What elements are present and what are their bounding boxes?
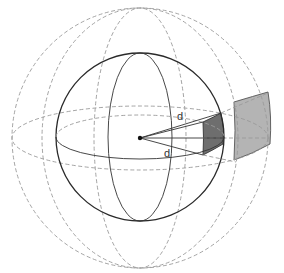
label-d-lower: d — [164, 147, 170, 159]
inner-dashed-equator-back — [56, 115, 224, 137]
label-d-upper: d — [177, 110, 183, 122]
center-point — [138, 136, 142, 140]
radial-dashed-extension-lower — [203, 155, 236, 162]
outer-shaded-patch — [234, 92, 271, 160]
concentric-spheres-diagram: d d — [0, 0, 284, 273]
inner-solid-equator-front — [56, 137, 224, 159]
inner-shaded-patch — [203, 113, 224, 155]
